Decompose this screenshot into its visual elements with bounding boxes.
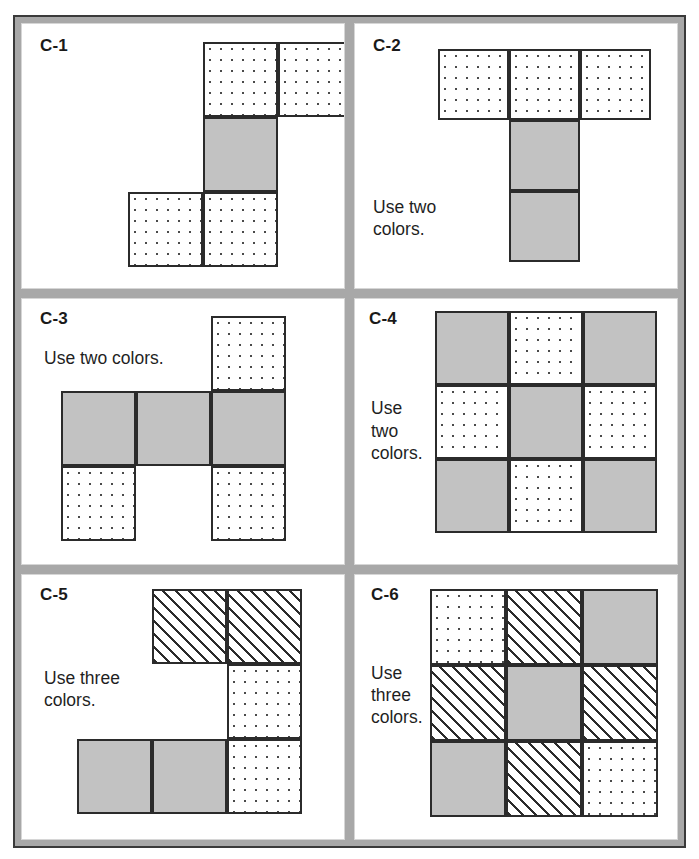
panel-caption: Use two colors. (373, 196, 436, 241)
panel-label: C-2 (373, 36, 401, 56)
figure-cell-dotted[interactable] (580, 49, 651, 120)
figure-cell-hatched[interactable] (430, 665, 506, 741)
figure-cell-gray[interactable] (506, 665, 582, 741)
figure-cell-dotted[interactable] (203, 42, 278, 117)
figure-cell-gray[interactable] (435, 311, 509, 385)
figure-cell-dotted[interactable] (435, 385, 509, 459)
figure-c-5 (77, 589, 302, 814)
figure-cell-gray[interactable] (583, 459, 657, 533)
figure-cell-dotted[interactable] (430, 589, 506, 665)
figure-cell-hatched[interactable] (506, 589, 582, 665)
panel-caption: Use two colors. (371, 397, 423, 464)
figure-cell-gray[interactable] (582, 589, 658, 665)
panel-label: C-4 (369, 309, 397, 329)
figure-cell-dotted[interactable] (583, 385, 657, 459)
figure-cell-dotted[interactable] (211, 466, 286, 541)
figure-cell-hatched[interactable] (227, 589, 302, 664)
figure-c-2 (438, 49, 651, 262)
panel-c-1: C-1Use two colors. (21, 23, 345, 289)
worksheet-page: C-1Use two colors.C-2Use two colors.C-3U… (0, 0, 699, 859)
panel-c-4: C-4Use two colors. (354, 298, 678, 564)
figure-cell-dotted[interactable] (509, 49, 580, 120)
figure-cell-gray[interactable] (77, 739, 152, 814)
panel-label: C-1 (40, 36, 68, 56)
panel-label: C-5 (40, 585, 68, 605)
figure-cell-gray[interactable] (152, 739, 227, 814)
figure-c-4 (435, 311, 657, 533)
figure-cell-dotted[interactable] (128, 192, 203, 267)
figure-c-3 (61, 316, 286, 541)
figure-c-1 (128, 42, 345, 267)
figure-cell-hatched[interactable] (582, 665, 658, 741)
figure-cell-gray[interactable] (583, 311, 657, 385)
figure-cell-gray[interactable] (509, 191, 580, 262)
figure-cell-gray[interactable] (509, 385, 583, 459)
figure-cell-dotted[interactable] (61, 466, 136, 541)
panel-c-3: C-3Use two colors. (21, 298, 345, 564)
figure-cell-gray[interactable] (435, 459, 509, 533)
figure-cell-gray[interactable] (211, 391, 286, 466)
figure-c-6 (430, 589, 658, 817)
panel-label: C-6 (371, 585, 399, 605)
figure-cell-hatched[interactable] (506, 741, 582, 817)
figure-cell-gray[interactable] (136, 391, 211, 466)
figure-cell-dotted[interactable] (438, 49, 509, 120)
panel-caption: Use three colors. (371, 662, 423, 729)
figure-cell-dotted[interactable] (227, 664, 302, 739)
figure-cell-gray[interactable] (203, 117, 278, 192)
figure-cell-dotted[interactable] (211, 316, 286, 391)
figure-cell-dotted[interactable] (509, 459, 583, 533)
figure-cell-dotted[interactable] (278, 42, 345, 117)
figure-cell-gray[interactable] (430, 741, 506, 817)
figure-cell-gray[interactable] (509, 120, 580, 191)
figure-cell-dotted[interactable] (582, 741, 658, 817)
figure-cell-dotted[interactable] (509, 311, 583, 385)
panel-c-5: C-5Use three colors. (21, 574, 345, 840)
panel-c-6: C-6Use three colors. (354, 574, 678, 840)
panel-grid: C-1Use two colors.C-2Use two colors.C-3U… (21, 23, 678, 840)
figure-cell-gray[interactable] (61, 391, 136, 466)
figure-cell-dotted[interactable] (203, 192, 278, 267)
figure-cell-hatched[interactable] (152, 589, 227, 664)
panel-c-2: C-2Use two colors. (354, 23, 678, 289)
figure-cell-dotted[interactable] (227, 739, 302, 814)
